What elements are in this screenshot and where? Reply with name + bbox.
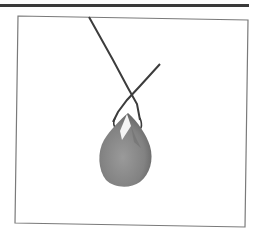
photo-frame [0, 0, 259, 239]
